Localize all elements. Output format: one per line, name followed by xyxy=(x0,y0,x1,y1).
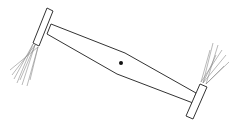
bristle-line xyxy=(201,50,222,82)
left-brush-bristles xyxy=(10,44,38,86)
pivot-point xyxy=(119,61,123,65)
right-brush-bristles xyxy=(201,43,229,84)
diagram-canvas xyxy=(0,0,241,129)
rod-diagram xyxy=(0,0,241,129)
bristle-line xyxy=(30,47,38,80)
bristle-line xyxy=(20,45,35,80)
